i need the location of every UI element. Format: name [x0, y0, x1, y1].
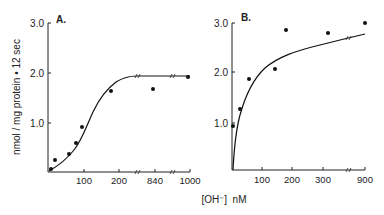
panel-b-xtick: 300	[315, 174, 331, 185]
panel-a-xtick: 100	[76, 175, 92, 186]
panel-b: 3.0 2.0 1.0 100 200 300 900 B.	[214, 12, 373, 185]
panel-b-ytick: 2.0	[214, 67, 228, 78]
panel-a: 3.0 2.0 1.0 100 200 840 1000	[30, 14, 200, 186]
panel-a-xtick: 200	[111, 175, 127, 186]
panel-b-xtick: 200	[284, 174, 300, 185]
panel-a-fit-curve	[49, 76, 190, 171]
panel-a-xtick: 1000	[179, 175, 200, 186]
panel-a-data-points	[49, 75, 190, 171]
panel-b-ytick: 1.0	[214, 118, 228, 129]
panel-a-xtick: 840	[147, 175, 163, 186]
panel-a-ytick: 3.0	[30, 18, 44, 29]
panel-a-ytick: 2.0	[30, 68, 44, 79]
panel-a-label: A.	[56, 14, 66, 25]
y-axis-label: nmol / mg protein • 12 sec	[11, 39, 22, 155]
panel-a-ytick: 1.0	[30, 118, 44, 129]
panel-b-xtick: 900	[357, 174, 373, 185]
panel-b-label: B.	[241, 12, 251, 23]
figure: 3.0 2.0 1.0 100 200 840 1000	[0, 0, 384, 215]
panel-b-data-points	[231, 21, 367, 128]
x-axis-label: [OH⁻] nM	[201, 194, 246, 205]
panel-b-fit-curve	[233, 34, 365, 170]
panel-b-ytick: 3.0	[214, 18, 228, 29]
panel-b-xtick: 100	[254, 174, 270, 185]
